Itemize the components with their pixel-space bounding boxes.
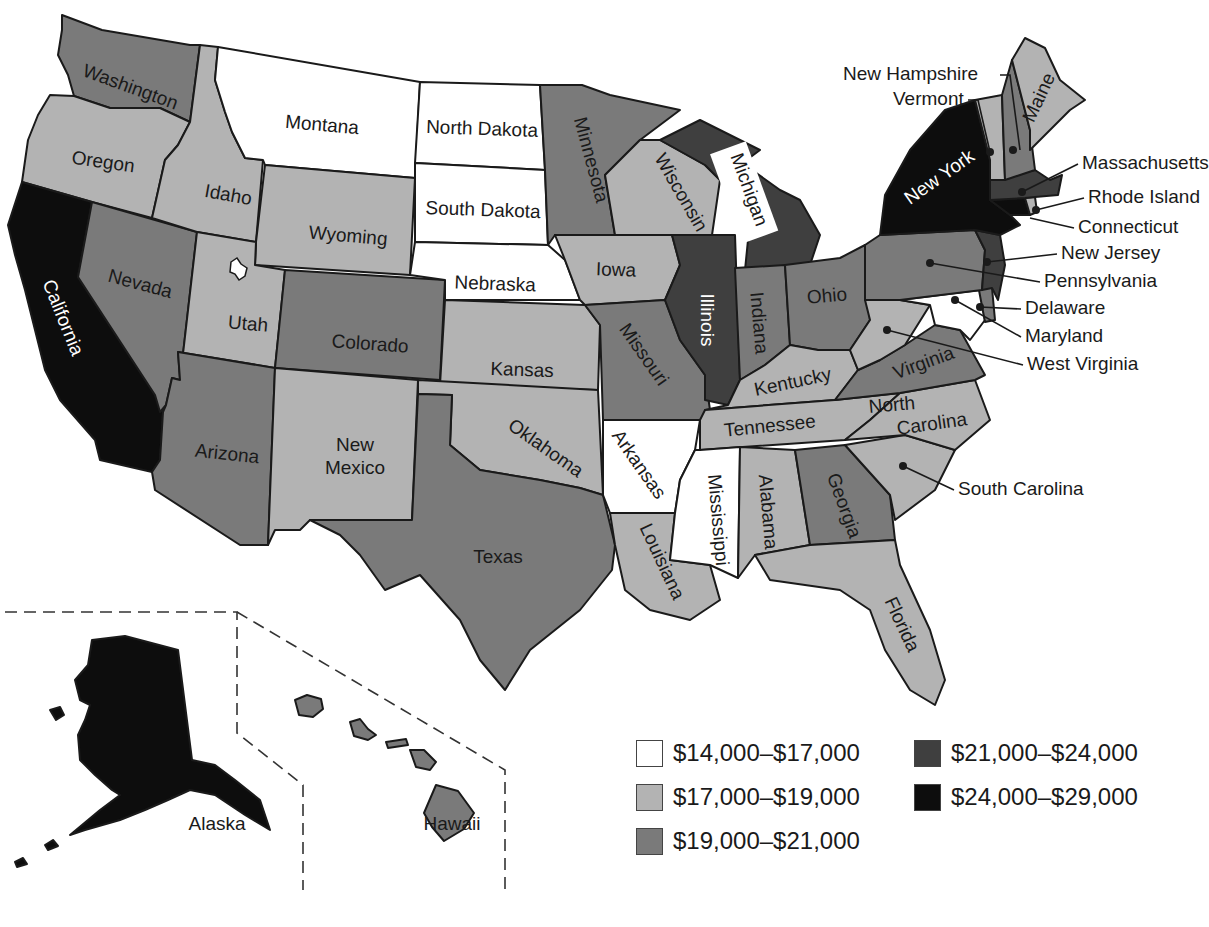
state-hawaii-maui[interactable]: [410, 750, 436, 770]
state-hawaii-oahu[interactable]: [350, 719, 376, 740]
label-utah: Utah: [227, 311, 269, 335]
label-ohio: Ohio: [806, 283, 848, 307]
state-alaska[interactable]: [70, 636, 270, 835]
svg-text:West Virginia: West Virginia: [1027, 353, 1139, 374]
legend-item-tier-2: $19,000–$21,000: [636, 826, 860, 856]
svg-text:Pennsylvania: Pennsylvania: [1044, 270, 1157, 291]
label-hawaii: Hawaii: [423, 813, 480, 834]
svg-text:Maryland: Maryland: [1025, 325, 1103, 346]
alaska-island: [15, 858, 27, 867]
svg-text:Rhode Island: Rhode Island: [1088, 186, 1200, 207]
label-nebraska: Nebraska: [454, 272, 536, 296]
label-north-carolina-1: North: [868, 392, 916, 417]
alaska-island: [45, 840, 58, 850]
state-hawaii-molokai[interactable]: [386, 739, 408, 748]
inset-border-hawaii: [237, 612, 505, 890]
svg-text:Connecticut: Connecticut: [1078, 216, 1179, 237]
legend-swatch: [636, 740, 663, 767]
legend-label: $17,000–$19,000: [673, 783, 860, 811]
legend-swatch: [636, 828, 663, 855]
svg-text:New Jersey: New Jersey: [1061, 242, 1161, 263]
legend-label: $19,000–$21,000: [673, 827, 860, 855]
legend-swatch: [914, 784, 941, 811]
label-alaska: Alaska: [188, 813, 245, 834]
svg-text:Delaware: Delaware: [1025, 297, 1105, 318]
legend-label: $24,000–$29,000: [951, 783, 1138, 811]
label-iowa: Iowa: [596, 258, 637, 280]
label-south-dakota: South Dakota: [425, 197, 541, 222]
legend-swatch: [636, 784, 663, 811]
label-kansas: Kansas: [490, 358, 554, 381]
svg-text:New Hampshire: New Hampshire: [843, 63, 978, 84]
legend-swatch: [914, 740, 941, 767]
label-texas: Texas: [473, 546, 523, 567]
state-montana[interactable]: [215, 47, 420, 178]
callout-connecticut: Connecticut: [1030, 216, 1179, 237]
svg-text:Vermont: Vermont: [893, 88, 964, 109]
label-illinois: Illinois: [697, 294, 718, 347]
legend-label: $14,000–$17,000: [673, 739, 860, 767]
alaska-island: [50, 707, 64, 720]
legend-label: $21,000–$24,000: [951, 739, 1138, 767]
legend-item-tier-1: $17,000–$19,000: [636, 782, 860, 812]
legend-item-tier-3: $21,000–$24,000: [914, 738, 1138, 768]
state-hawaii-kauai[interactable]: [295, 695, 323, 717]
state-florida[interactable]: [755, 540, 945, 705]
svg-text:South Carolina: South Carolina: [958, 478, 1084, 499]
legend-item-tier-0: $14,000–$17,000: [636, 738, 860, 768]
state-pennsylvania[interactable]: [865, 230, 985, 300]
state-wyoming[interactable]: [255, 165, 415, 275]
svg-text:Massachusetts: Massachusetts: [1082, 152, 1209, 173]
label-new-mexico-1: New: [336, 434, 374, 455]
callout-new-jersey: New Jersey: [983, 242, 1161, 266]
legend-item-tier-4: $24,000–$29,000: [914, 782, 1138, 812]
state-colorado[interactable]: [275, 270, 445, 380]
label-new-mexico-2: Mexico: [325, 457, 385, 478]
label-north-dakota: North Dakota: [426, 116, 539, 141]
